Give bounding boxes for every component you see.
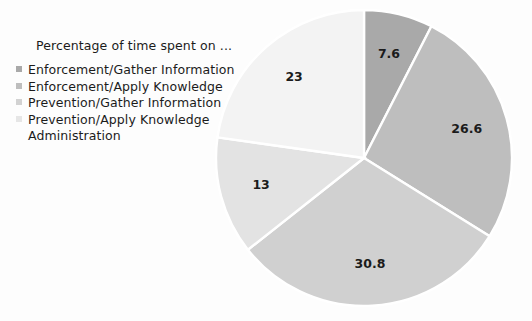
pie-chart-figure: Percentage of time spent on ... Enforcem… (0, 0, 532, 321)
pie-slice-value-prevention-apply-knowledge: 13 (252, 177, 269, 192)
legend-item-enforcement-apply-knowledge[interactable]: Enforcement/Apply Knowledge (8, 79, 238, 95)
legend-item-label: Enforcement/Gather Information (28, 62, 235, 78)
legend-item-prevention-gather-information[interactable]: Prevention/Gather Information (8, 95, 238, 111)
pie-graphic: 7.626.630.81323 (214, 8, 514, 308)
legend-item-label: Administration (28, 128, 121, 144)
legend-item-prevention-apply-knowledge[interactable]: Prevention/Apply Knowledge (8, 112, 238, 128)
legend-swatch-icon (16, 99, 22, 105)
pie-slice-value-prevention-gather-information: 30.8 (355, 256, 386, 271)
legend-item-label: Enforcement/Apply Knowledge (28, 79, 223, 95)
legend-item-label: Prevention/Gather Information (28, 95, 221, 111)
legend-item-administration[interactable]: Administration (8, 128, 238, 144)
pie-svg: 7.626.630.81323 (214, 8, 514, 308)
pie-slice-value-enforcement-apply-knowledge: 26.6 (451, 121, 482, 136)
pie-slice-value-administration: 23 (285, 69, 302, 84)
legend-title: Percentage of time spent on ... (36, 38, 238, 53)
legend-swatch-icon (16, 83, 22, 89)
legend-swatch-icon (16, 66, 22, 72)
legend-swatch-icon (16, 132, 22, 138)
chart-legend: Percentage of time spent on ... Enforcem… (8, 38, 238, 145)
legend-item-enforcement-gather-information[interactable]: Enforcement/Gather Information (8, 62, 238, 78)
pie-slice-value-enforcement-gather-information: 7.6 (378, 46, 400, 61)
legend-swatch-icon (16, 116, 22, 122)
legend-item-label: Prevention/Apply Knowledge (28, 112, 210, 128)
